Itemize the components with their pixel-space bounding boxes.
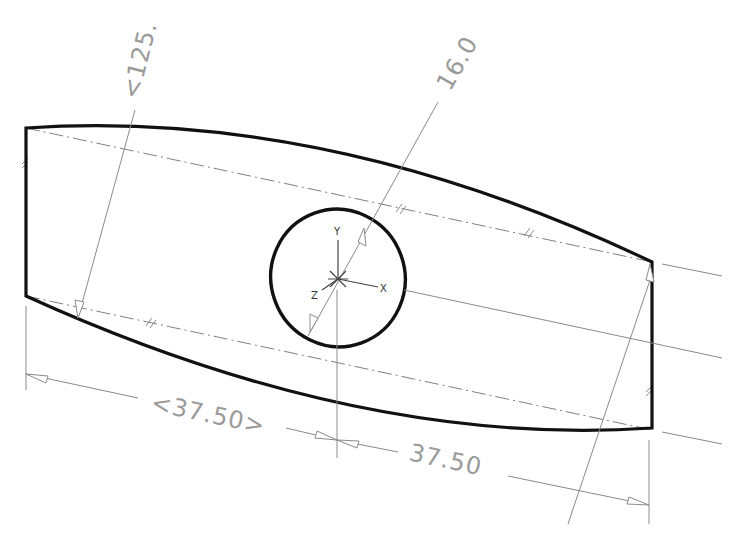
upper-centerline	[26, 128, 652, 262]
radius-dimension-label: <125.	[117, 18, 163, 101]
extension-line	[404, 290, 722, 358]
arrow-head	[627, 497, 649, 505]
arrow-head	[75, 300, 84, 318]
arrow-head	[26, 374, 48, 383]
x-axis-label: X	[380, 283, 387, 294]
cad-drawing-canvas[interactable]: <125. 16.0 <37.50> 37.50 Y	[0, 0, 742, 550]
arrow-head	[337, 440, 359, 448]
diameter-dimension-label: 16.0	[431, 31, 484, 95]
radius-dimension[interactable]: <125.	[75, 18, 163, 318]
extension-line	[662, 432, 722, 444]
right-width-label: 37.50	[407, 438, 485, 481]
lower-centerline	[26, 296, 652, 430]
width-dimensions[interactable]: <37.50> 37.50	[26, 290, 649, 524]
right-extension-lines	[404, 264, 722, 524]
left-width-label: <37.50>	[149, 388, 268, 439]
z-axis-label: Z	[311, 290, 318, 301]
coordinate-triad: Y X Z	[311, 226, 387, 301]
extension-line	[662, 264, 722, 276]
arrow-head	[310, 314, 318, 332]
diameter-leader-line	[308, 102, 438, 336]
y-axis-label: Y	[333, 226, 341, 237]
slant-line	[568, 280, 650, 524]
arrow-head	[315, 431, 337, 440]
